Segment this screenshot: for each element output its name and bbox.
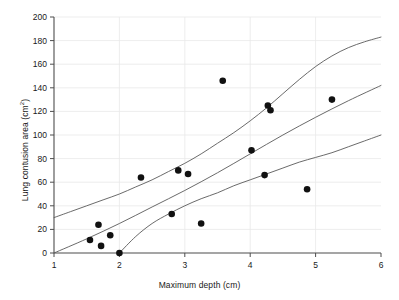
data-point — [98, 243, 105, 250]
x-tick-label: 5 — [313, 260, 318, 270]
x-tick-label: 3 — [182, 260, 187, 270]
y-tick-label: 80 — [38, 154, 48, 164]
fit-curves — [54, 37, 381, 253]
data-point — [138, 174, 145, 181]
data-point — [175, 167, 182, 174]
data-point — [116, 250, 123, 257]
data-point — [198, 220, 205, 227]
data-point — [168, 211, 175, 218]
x-tick-label: 2 — [117, 260, 122, 270]
y-tick-label: 140 — [33, 83, 47, 93]
y-tick-label: 120 — [33, 106, 47, 116]
data-point — [95, 221, 102, 228]
scatter-plot: 020406080100120140160180200123456 — [0, 0, 399, 300]
y-tick-label: 60 — [38, 177, 48, 187]
x-tick-label: 4 — [248, 260, 253, 270]
x-tick-label: 6 — [379, 260, 384, 270]
y-tick-label: 100 — [33, 130, 47, 140]
data-point — [248, 147, 255, 154]
tick-labels: 020406080100120140160180200123456 — [33, 12, 384, 270]
data-point — [219, 77, 226, 84]
regression-line — [54, 85, 381, 253]
data-point — [267, 107, 274, 114]
y-tick-label: 160 — [33, 59, 47, 69]
y-tick-label: 0 — [42, 248, 47, 258]
data-point — [185, 171, 192, 178]
data-point — [87, 237, 94, 244]
data-point — [261, 172, 268, 179]
y-tick-label: 40 — [38, 201, 48, 211]
chart-figure: 020406080100120140160180200123456 Lung c… — [0, 0, 399, 300]
y-tick-label: 20 — [38, 224, 48, 234]
data-point — [107, 232, 114, 239]
y-tick-label: 180 — [33, 36, 47, 46]
axis-ticks — [50, 17, 381, 257]
data-point — [304, 186, 311, 193]
y-tick-label: 200 — [33, 12, 47, 22]
x-tick-label: 1 — [52, 260, 57, 270]
data-point — [329, 96, 336, 103]
x-axis-title: Maximum depth (cm) — [0, 280, 399, 290]
grid-lines — [54, 17, 381, 253]
